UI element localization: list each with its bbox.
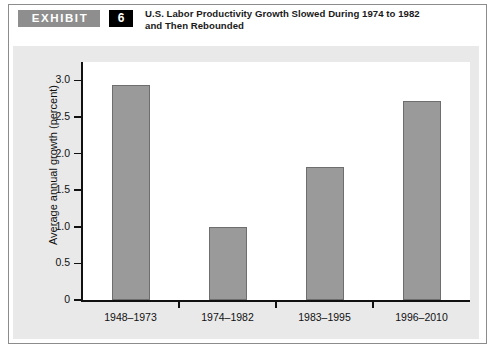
y-tick-label: 1.5 xyxy=(30,184,70,194)
y-tick-label: 3.0 xyxy=(30,74,70,84)
x-tick-label: 1996–2010 xyxy=(373,311,470,323)
y-tick-mark xyxy=(74,153,81,155)
exhibit-title-line-1: U.S. Labor Productivity Growth Slowed Du… xyxy=(145,8,485,20)
y-tick-label: 2.0 xyxy=(30,148,70,158)
y-tick-label: 0 xyxy=(30,294,70,304)
y-tick-mark xyxy=(74,226,81,228)
x-tick-label: 1974–1982 xyxy=(179,311,276,323)
exhibit-tag-label: EXHIBIT xyxy=(18,10,100,27)
exhibit-header: EXHIBIT 6 U.S. Labor Productivity Growth… xyxy=(9,5,486,41)
y-axis-line xyxy=(81,62,83,301)
y-tick-label: 0.5 xyxy=(30,257,70,267)
exhibit-title: U.S. Labor Productivity Growth Slowed Du… xyxy=(145,8,485,31)
x-tick-mark xyxy=(275,301,277,308)
bar xyxy=(209,227,247,300)
chart-panel: Average annual growth (percent) 00.51.01… xyxy=(13,46,479,339)
y-tick-mark xyxy=(74,263,81,265)
exhibit-title-line-2: and Then Rebounded xyxy=(145,20,485,32)
bar xyxy=(306,167,344,300)
exhibit-number-badge: 6 xyxy=(109,10,133,27)
y-tick-mark xyxy=(74,116,81,118)
x-tick-mark xyxy=(372,301,374,308)
y-tick-label: 1.0 xyxy=(30,221,70,231)
y-tick-label: 2.5 xyxy=(30,111,70,121)
y-tick-mark xyxy=(74,80,81,82)
x-tick-label: 1983–1995 xyxy=(276,311,373,323)
bar xyxy=(403,101,441,300)
bar xyxy=(112,85,150,300)
y-tick-mark xyxy=(74,299,81,301)
x-tick-mark xyxy=(178,301,180,308)
y-tick-mark xyxy=(74,189,81,191)
x-tick-label: 1948–1973 xyxy=(82,311,179,323)
exhibit-figure: EXHIBIT 6 U.S. Labor Productivity Growth… xyxy=(0,0,499,351)
